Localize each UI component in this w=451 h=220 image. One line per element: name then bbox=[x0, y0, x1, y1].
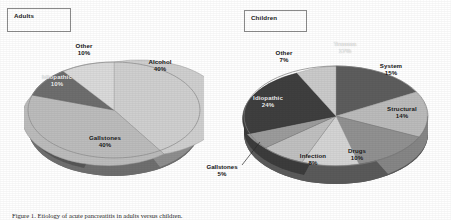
children-label-idiopathic-pct: 24% bbox=[241, 101, 295, 108]
adults-label-other: Other 10% bbox=[62, 42, 106, 56]
adults-label-alcohol-name: Alcohol bbox=[148, 58, 171, 65]
children-label-infection-pct: 8% bbox=[288, 159, 338, 166]
children-label-drugs: Drugs 10% bbox=[336, 147, 378, 161]
children-label-structural-pct: 14% bbox=[374, 112, 430, 119]
children-label-trauma-name: Trauma bbox=[334, 40, 356, 47]
children-label-system-name: System bbox=[380, 62, 402, 69]
children-label-trauma-pct: 17% bbox=[322, 47, 368, 54]
adults-label-other-name: Other bbox=[76, 42, 93, 49]
children-label-idiopathic: Idiopathic 24% bbox=[241, 94, 295, 108]
children-label-other: Other 7% bbox=[266, 49, 302, 63]
adults-title-label: Adults bbox=[8, 9, 34, 19]
adults-label-gallstones-name: Gallstones bbox=[89, 134, 121, 141]
adults-label-alcohol-pct: 40% bbox=[132, 65, 188, 72]
children-label-other-pct: 7% bbox=[266, 56, 302, 63]
adults-label-gallstones-pct: 40% bbox=[72, 141, 138, 148]
adults-label-alcohol: Alcohol 40% bbox=[132, 58, 188, 72]
children-pie-chart: Trauma 17% System 15% Structural 14% Dru… bbox=[238, 26, 434, 202]
children-title-label: Children bbox=[245, 11, 277, 21]
adults-label-other-pct: 10% bbox=[62, 49, 106, 56]
children-label-structural-name: Structural bbox=[387, 105, 417, 112]
children-callout-gallstones: Gallstones 5% bbox=[193, 163, 251, 177]
children-label-system-pct: 15% bbox=[368, 69, 414, 76]
panel-children: Children bbox=[228, 0, 451, 205]
children-label-infection: Infection 8% bbox=[288, 152, 338, 166]
adults-label-idiopathic: Idiopathic 10% bbox=[29, 73, 85, 87]
children-label-system: System 15% bbox=[368, 62, 414, 76]
adults-label-gallstones: Gallstones 40% bbox=[72, 134, 138, 148]
adults-pie-svg bbox=[24, 22, 204, 197]
figure-caption: Figure 1. Etiology of acute pancreatitis… bbox=[12, 211, 442, 220]
adults-label-idiopathic-pct: 10% bbox=[29, 80, 85, 87]
children-callout-gallstones-name: Gallstones bbox=[206, 163, 237, 170]
figure-container: Adults bbox=[0, 0, 451, 220]
adults-pie-chart: Alcohol 40% Gallstones 40% Idiopathic 10… bbox=[24, 22, 204, 197]
children-callout-gallstones-pct: 5% bbox=[193, 170, 251, 177]
adults-label-idiopathic-name: Idiopathic bbox=[42, 73, 72, 80]
children-label-trauma: Trauma 17% bbox=[322, 40, 368, 54]
children-label-drugs-name: Drugs bbox=[348, 147, 366, 154]
children-label-infection-name: Infection bbox=[300, 152, 326, 159]
children-label-idiopathic-name: Idiopathic bbox=[253, 94, 283, 101]
children-label-other-name: Other bbox=[276, 49, 293, 56]
children-label-structural: Structural 14% bbox=[374, 105, 430, 119]
children-label-drugs-pct: 10% bbox=[336, 154, 378, 161]
